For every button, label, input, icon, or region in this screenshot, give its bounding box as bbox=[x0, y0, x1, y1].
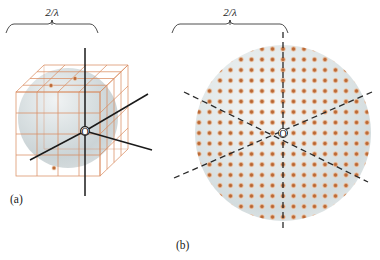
brace-a bbox=[6, 20, 98, 33]
caption-b: (b) bbox=[176, 239, 190, 252]
crystallography-figure: 2/λ bbox=[0, 0, 380, 260]
origin-label-b: O bbox=[279, 128, 287, 139]
brace-label-a: 2/λ bbox=[45, 6, 59, 18]
limiting-sphere-a bbox=[18, 68, 118, 168]
panel-b: 2/λ bbox=[172, 6, 380, 252]
origin-label-a: O bbox=[81, 126, 89, 137]
brace-b bbox=[172, 20, 288, 33]
panel-a: 2/λ bbox=[6, 6, 152, 206]
brace-label-b: 2/λ bbox=[223, 6, 237, 18]
caption-a: (a) bbox=[10, 193, 23, 206]
